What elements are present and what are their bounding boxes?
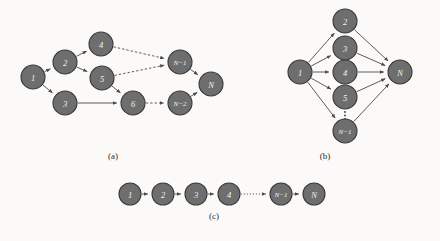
- graph-edge: [43, 85, 52, 93]
- node-label: N−2: [173, 100, 187, 108]
- node-label: 1: [298, 68, 302, 78]
- graph-node: 1: [288, 60, 312, 84]
- panel-caption-c: (c): [209, 211, 219, 221]
- graph-edge: [115, 65, 165, 75]
- graph-edge: [354, 84, 389, 122]
- graph-node: 2: [152, 183, 174, 205]
- figure-canvas: 123456N−1N−2N12345N−1N1234N−1N (a)(b)(c): [0, 0, 440, 241]
- graph-node: N−2: [168, 91, 192, 115]
- graph-edge: [191, 92, 197, 96]
- graph-node: 4: [333, 60, 357, 84]
- graph-edge: [113, 47, 164, 59]
- graph-node: N−1: [333, 119, 357, 143]
- graph-edge: [112, 86, 120, 93]
- node-label: 3: [193, 190, 198, 200]
- graph-node: 3: [333, 36, 357, 60]
- panel-caption-a: (a): [108, 151, 118, 161]
- graph-edge: [308, 33, 334, 62]
- graph-node: 3: [53, 91, 77, 115]
- graph-node: 1: [21, 65, 45, 89]
- graph-node: 3: [185, 183, 207, 205]
- node-label: 5: [343, 93, 347, 103]
- graph-node: N−1: [270, 183, 292, 205]
- captions-layer: (a)(b)(c): [108, 151, 330, 221]
- graph-node: N−1: [168, 50, 192, 74]
- graph-node: 2: [333, 9, 357, 33]
- node-label: 3: [62, 99, 67, 109]
- graph-node: N: [388, 60, 412, 84]
- graph-edge: [77, 67, 87, 71]
- node-label: N−1: [274, 191, 288, 199]
- panel-caption-b: (b): [320, 151, 331, 161]
- graph-edge: [354, 30, 388, 61]
- node-label: N−1: [173, 59, 187, 67]
- graph-edge: [308, 82, 335, 118]
- graph-edge: [357, 79, 386, 92]
- nodes-layer: 123456N−1N−2N12345N−1N1234N−1N: [21, 9, 412, 205]
- graph-node: 2: [53, 50, 77, 74]
- node-label: 5: [100, 74, 104, 84]
- node-label: 1: [128, 190, 132, 200]
- graph-node: 4: [89, 32, 113, 56]
- graph-edge: [311, 78, 331, 89]
- node-label: 3: [342, 44, 347, 54]
- graph-node: N: [199, 72, 223, 96]
- graph-node: 4: [218, 183, 240, 205]
- ellipsis-dot: [344, 115, 346, 117]
- graph-node: 1: [119, 183, 141, 205]
- graph-edge: [357, 53, 385, 65]
- node-label: 1: [31, 73, 35, 83]
- graph-node: N: [303, 183, 325, 205]
- graph-node: 5: [333, 85, 357, 109]
- graph-node: 6: [121, 91, 145, 115]
- graph-edge: [76, 51, 86, 56]
- graph-node: 5: [90, 66, 114, 90]
- ellipsis-dot: [344, 111, 346, 113]
- graph-edge: [190, 69, 197, 74]
- graph-edge: [311, 56, 330, 66]
- graph-edge: [45, 69, 51, 72]
- graph-diagram-svg: 123456N−1N−2N12345N−1N1234N−1N (a)(b)(c): [0, 0, 440, 241]
- node-label: N−1: [338, 128, 352, 136]
